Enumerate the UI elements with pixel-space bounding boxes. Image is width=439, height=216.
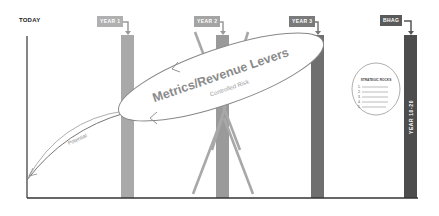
rock-item-4: 4.: [358, 100, 361, 104]
rock-item-2: 2.: [358, 90, 361, 94]
potential-curve-outer: [28, 111, 124, 178]
rock-item-3: 3.: [358, 95, 361, 99]
year-1-label: YEAR 1: [97, 16, 123, 27]
strategic-rocks: STRATEGIC ROCKS 1. 2. 3. 4. 5.: [352, 63, 400, 115]
bhag-label: BHAG: [380, 15, 402, 26]
strategic-rocks-title: STRATEGIC ROCKS: [361, 78, 392, 82]
rock-item-5: 5.: [358, 105, 361, 109]
year-3-label: YEAR 3: [289, 16, 315, 27]
diagram-canvas: Metrics/Revenue Levers Controlled Risk P…: [0, 0, 439, 216]
potential-curve-inner: [27, 113, 125, 180]
rock-item-1: 1.: [358, 85, 361, 89]
year-2-label: YEAR 2: [194, 16, 220, 27]
